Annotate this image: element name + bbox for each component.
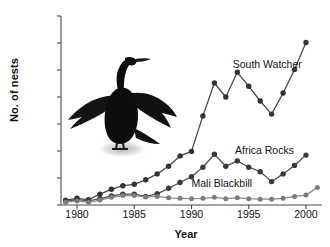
plot-area bbox=[0, 0, 330, 247]
chart-figure: No. of nests 03006009001200150018002100 … bbox=[0, 0, 330, 247]
series-label-africa-rocks: Africa Rocks bbox=[235, 144, 294, 156]
series-label-south-watcher: South Watcher bbox=[233, 58, 302, 70]
series-africa-rocks bbox=[63, 152, 309, 205]
series-label-mali-blackbill: Mali Blackbill bbox=[192, 177, 253, 189]
